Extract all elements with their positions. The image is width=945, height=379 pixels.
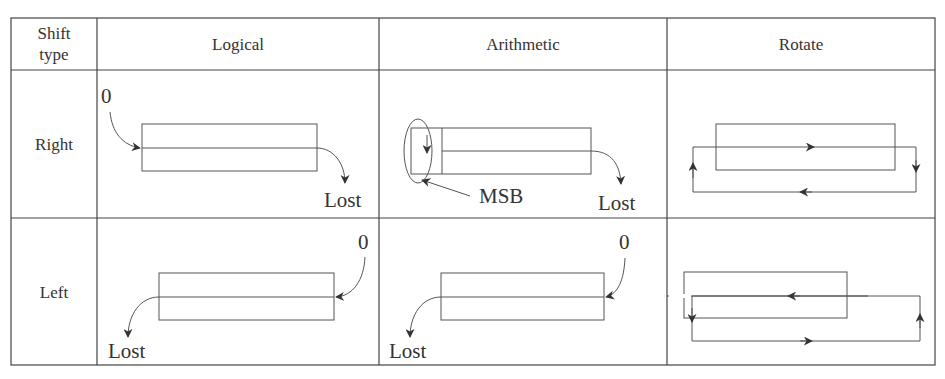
- lost-label: Lost: [598, 193, 635, 214]
- corner-header-line1: Shift: [37, 25, 70, 42]
- row-header-right: Right: [35, 136, 73, 153]
- lost-label: Lost: [324, 190, 361, 211]
- column-header-arithmetic: Arithmetic: [486, 36, 560, 53]
- input-zero-label: 0: [358, 232, 369, 253]
- msb-label: MSB: [479, 186, 523, 207]
- lost-label: Lost: [389, 341, 426, 362]
- column-header-logical: Logical: [212, 36, 264, 53]
- msb-highlight: [404, 119, 432, 183]
- input-zero-label: 0: [619, 232, 630, 253]
- input-zero-label: 0: [101, 86, 112, 107]
- column-header-rotate: Rotate: [779, 36, 823, 53]
- row-header-left: Left: [40, 284, 68, 301]
- register-box: [684, 272, 847, 318]
- lost-label: Lost: [108, 341, 145, 362]
- corner-header-line2: type: [39, 46, 68, 63]
- shift-types-diagram: [0, 0, 945, 379]
